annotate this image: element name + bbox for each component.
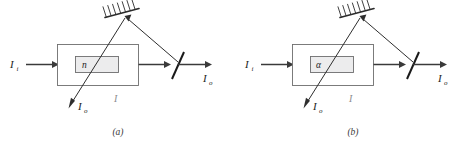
svg-text:i: i: [17, 65, 19, 73]
input-beam-b: [261, 61, 294, 68]
svg-text:I: I: [244, 58, 250, 70]
caption-b: (b): [347, 127, 358, 138]
input-label-b: I i: [244, 58, 254, 73]
output-down-label-a: I o: [77, 100, 88, 115]
svg-text:I: I: [9, 58, 15, 70]
output-down-label-b: I o: [312, 100, 323, 115]
beamsplitter-a: [172, 52, 184, 79]
exit-beam-a: [139, 61, 172, 68]
svg-text:I: I: [437, 72, 443, 84]
svg-text:I: I: [202, 72, 208, 84]
svg-text:I: I: [77, 100, 83, 112]
input-beam-a: [26, 61, 59, 68]
figure-root: n: [0, 0, 470, 143]
panel-b: α: [235, 0, 470, 143]
exit-beam-b: [374, 61, 407, 68]
svg-text:o: o: [209, 79, 213, 87]
input-label-a: I i: [9, 58, 19, 73]
cavity-label-b: I: [348, 93, 353, 104]
svg-text:o: o: [84, 107, 88, 115]
svg-text:o: o: [319, 107, 323, 115]
medium-symbol-a: n: [82, 60, 87, 70]
svg-text:I: I: [312, 100, 318, 112]
caption-a: (a): [112, 127, 123, 138]
cavity-label-a: I: [113, 93, 118, 104]
svg-text:i: i: [252, 65, 254, 73]
output-beam-right-a: [178, 61, 212, 68]
output-right-label-b: I o: [437, 72, 448, 87]
panel-a: n: [0, 0, 235, 143]
beamsplitter-b: [407, 52, 419, 79]
output-beam-right-b: [413, 61, 447, 68]
output-right-label-a: I o: [202, 72, 213, 87]
svg-text:o: o: [444, 79, 448, 87]
